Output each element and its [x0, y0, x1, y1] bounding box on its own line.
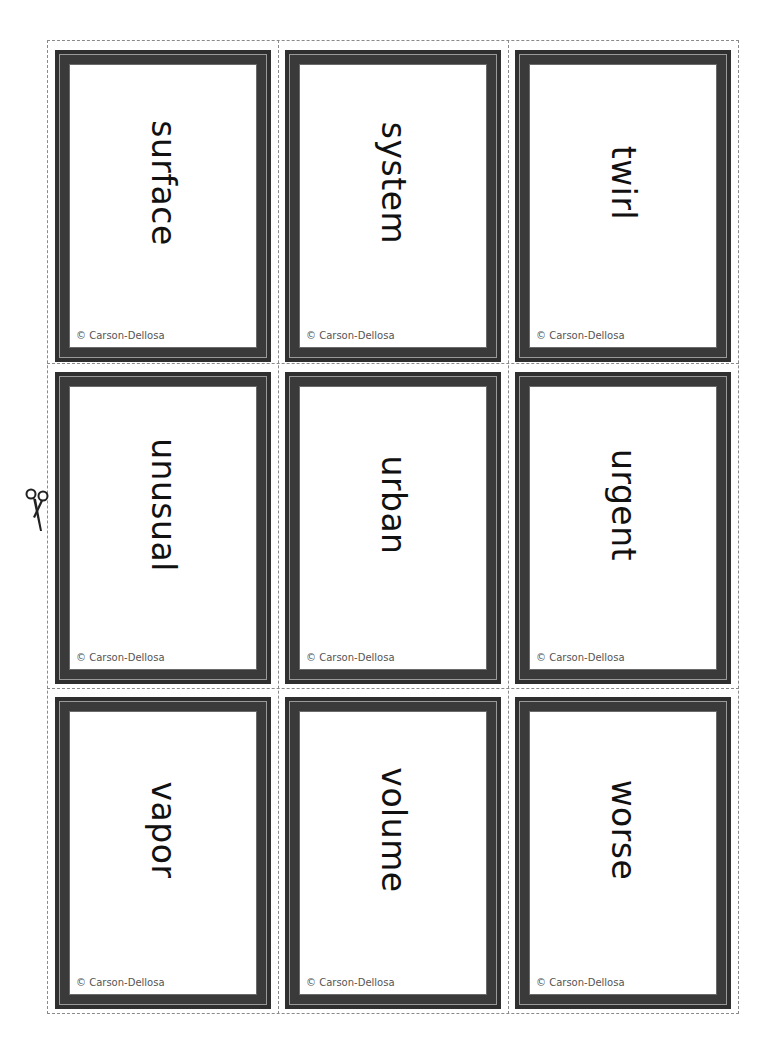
flash-card: unusual © Carson-Dellosa	[55, 372, 271, 684]
cut-line-vertical-2	[508, 40, 509, 1014]
flash-card: worse © Carson-Dellosa	[515, 697, 731, 1009]
card-copyright: © Carson-Dellosa	[536, 652, 625, 663]
card-copyright: © Carson-Dellosa	[76, 977, 165, 988]
flash-card: urgent © Carson-Dellosa	[515, 372, 731, 684]
card-copyright: © Carson-Dellosa	[76, 652, 165, 663]
card-copyright: © Carson-Dellosa	[306, 330, 395, 341]
card-word: vapor	[144, 782, 183, 879]
cut-line-horizontal-1	[47, 363, 739, 364]
flash-card: twirl © Carson-Dellosa	[515, 50, 731, 362]
flash-card: volume © Carson-Dellosa	[285, 697, 501, 1009]
card-word: volume	[374, 768, 413, 893]
card-copyright: © Carson-Dellosa	[536, 330, 625, 341]
card-word: urban	[374, 456, 413, 555]
card-word: unusual	[144, 439, 183, 573]
card-copyright: © Carson-Dellosa	[306, 977, 395, 988]
card-copyright: © Carson-Dellosa	[536, 977, 625, 988]
card-word: twirl	[604, 146, 643, 220]
flash-card: system © Carson-Dellosa	[285, 50, 501, 362]
flash-card: vapor © Carson-Dellosa	[55, 697, 271, 1009]
flash-card: urban © Carson-Dellosa	[285, 372, 501, 684]
card-word: surface	[144, 121, 183, 246]
card-word: system	[374, 122, 413, 244]
card-copyright: © Carson-Dellosa	[76, 330, 165, 341]
card-copyright: © Carson-Dellosa	[306, 652, 395, 663]
cut-line-horizontal-2	[47, 688, 739, 689]
cut-line-vertical-1	[278, 40, 279, 1014]
card-word: urgent	[604, 449, 643, 561]
scissors-icon	[24, 487, 50, 535]
flash-card: surface © Carson-Dellosa	[55, 50, 271, 362]
card-word: worse	[604, 780, 643, 881]
